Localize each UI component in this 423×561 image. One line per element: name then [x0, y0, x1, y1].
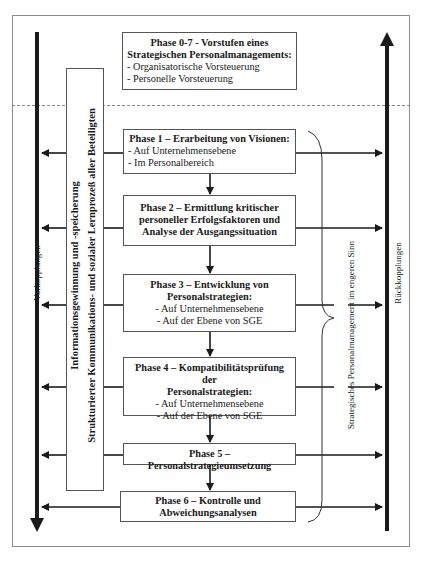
phase-0-item: - Organisatorische Vorsteuerung [127, 61, 292, 73]
phase-5-title: Phase 5 – Personalstrategieumsetzung [128, 448, 291, 472]
phase-4-item: - Auf Unternehmensebene [128, 398, 291, 410]
phase-6-title-1: Phase 6 – Kontrolle und [125, 495, 291, 507]
phase-3-item: - Auf der Ebene von SGE [128, 315, 291, 327]
rueckkopplungen-label: Rückkopplungen [393, 213, 403, 333]
info-gathering-label: Informationsgewinnung und -speicherung [69, 76, 80, 476]
phase-6-title-2: Abweichungsanalysen [125, 507, 291, 519]
phase-2-box: Phase 2 – Ermittlung kritischer personel… [123, 195, 296, 246]
phase-3-title-2: Personalstrategien: [128, 291, 291, 303]
phase-1-item: - Auf Unternehmensebene [128, 145, 291, 157]
phase-0-title-1: Phase 0-7 - Vorstufen eines [127, 37, 292, 49]
phase-4-item: - Auf der Ebene von SGE [128, 410, 291, 422]
bracket-label: Strategisches Personalmanagement im enge… [346, 205, 356, 465]
phase-1-box: Phase 1 – Erarbeitung von Visionen: - Au… [123, 129, 296, 174]
vorkopplungen-label: Vorkopplungen [32, 213, 42, 333]
communication-process-label: Strukturierter Kommunikations- und sozia… [86, 76, 97, 476]
phase-3-item: - Auf Unternehmensebene [128, 303, 291, 315]
phase-1-item: - Im Personalbereich [128, 157, 291, 169]
phase-2-title-2: personeller Erfolgsfaktoren und [128, 214, 291, 226]
phase-4-title-1: Phase 4 – Kompatibilitätsprüfung der [128, 362, 291, 386]
phase-3-title-1: Phase 3 – Entwicklung von [128, 279, 291, 291]
phase-0-box: Phase 0-7 - Vorstufen eines Strategische… [122, 32, 297, 90]
phase-5-box: Phase 5 – Personalstrategieumsetzung [123, 443, 296, 465]
phase-0-title-2: Strategischen Personalmanagements: [127, 49, 292, 61]
phase-1-title: Phase 1 – Erarbeitung von Visionen: [128, 133, 291, 145]
phase-6-box: Phase 6 – Kontrolle und Abweichungsanaly… [120, 491, 296, 522]
phase-0-item: - Personelle Vorsteuerung [127, 73, 292, 85]
phase-2-title-1: Phase 2 – Ermittlung kritischer [128, 202, 291, 214]
phase-4-box: Phase 4 – Kompatibilitätsprüfung der Per… [123, 357, 296, 416]
phase-3-box: Phase 3 – Entwicklung von Personalstrate… [123, 274, 296, 332]
phase-2-title-3: Analyse der Ausgangssituation [128, 226, 291, 238]
phase-4-title-2: Personalstrategien: [128, 386, 291, 398]
